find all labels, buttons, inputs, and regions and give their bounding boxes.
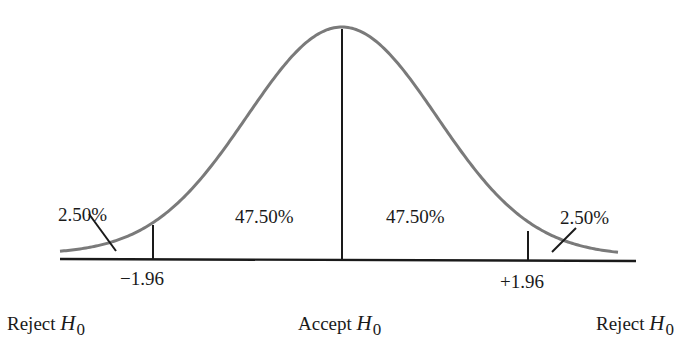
hypothesis-symbol: H — [60, 311, 75, 335]
right-tail-leader-line — [552, 228, 576, 252]
accept-region-label: Accept H0 — [298, 313, 381, 338]
reject-region-left-label: Reject H0 — [7, 313, 85, 338]
x-axis-baseline — [60, 259, 636, 261]
normal-distribution-diagram — [0, 0, 697, 344]
hypothesis-subscript: 0 — [373, 320, 382, 339]
hypothesis-symbol: H — [357, 311, 372, 335]
region-word: Reject — [596, 313, 645, 334]
region-word: Reject — [7, 313, 56, 334]
positive-critical-value: +1.96 — [500, 272, 544, 291]
right-tail-area-label: 2.50% — [560, 208, 609, 227]
reject-region-right-label: Reject H0 — [596, 313, 674, 338]
region-word: Accept — [298, 313, 352, 334]
bell-curve — [60, 27, 618, 252]
right-center-area-label: 47.50% — [386, 207, 445, 226]
left-tail-area-label: 2.50% — [58, 205, 107, 224]
hypothesis-symbol: H — [649, 311, 664, 335]
hypothesis-subscript: 0 — [76, 320, 85, 339]
negative-critical-value: −1.96 — [120, 269, 164, 288]
hypothesis-subscript: 0 — [665, 320, 674, 339]
left-center-area-label: 47.50% — [235, 207, 294, 226]
